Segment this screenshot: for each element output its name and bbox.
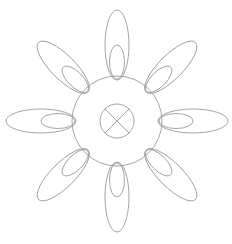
petal-inner-ellipse [110,163,125,197]
petal-3 [30,34,96,100]
petal-5 [30,142,96,208]
petal-2 [105,10,129,80]
petal-inner-ellipse [159,114,193,129]
petal-0 [158,109,228,133]
hub-cross-circle-icon [100,104,134,138]
flower-diagram [0,0,232,244]
petal-4 [6,109,76,133]
petal-inner-ellipse [41,114,75,129]
petal-6 [105,162,129,232]
petal-inner-ellipse [110,45,125,79]
petal-1 [138,34,204,100]
petal-7 [138,142,204,208]
